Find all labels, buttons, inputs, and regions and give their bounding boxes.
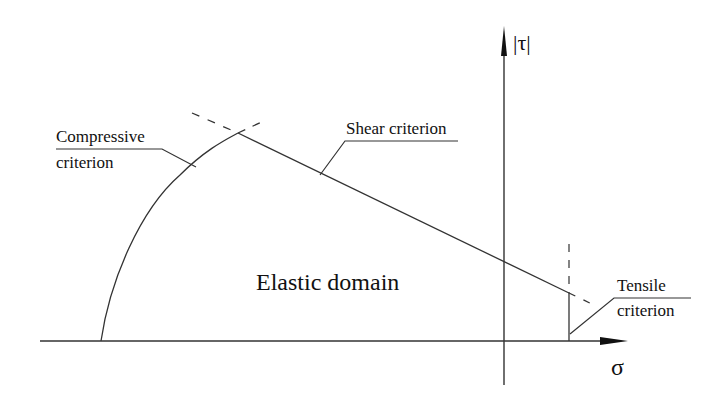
shear-label-leader	[320, 141, 458, 175]
compressive-dashed-extension	[238, 120, 266, 133]
tensile-label-line1: Tensile	[617, 276, 666, 295]
sigma-axis-arrowhead-icon	[600, 337, 628, 345]
elastic-domain-label: Elastic domain	[256, 269, 399, 295]
shear-dashed-extension-right	[569, 293, 596, 306]
shear-criterion-label: Shear criterion	[346, 119, 447, 138]
compressive-criterion-curve	[101, 133, 238, 341]
tau-axis-arrowhead-icon	[501, 26, 507, 56]
shear-dashed-extension-left	[192, 113, 238, 133]
tensile-label-line2: criterion	[617, 301, 675, 320]
sigma-axis	[40, 337, 628, 345]
tau-axis-label: |τ|	[513, 30, 531, 55]
compressive-label-line1: Compressive	[56, 127, 145, 146]
sigma-axis-label: σ	[611, 354, 624, 380]
tau-axis	[501, 26, 507, 385]
compressive-label-line2: criterion	[56, 153, 114, 172]
failure-criteria-diagram: Compressive criterion Shear criterion Te…	[0, 0, 728, 412]
